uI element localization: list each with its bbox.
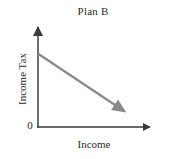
- origin-label: 0: [24, 119, 36, 131]
- tax-schedule-line: [39, 54, 125, 111]
- figure-plan-b: Plan B Income Tax Income 0: [0, 0, 170, 159]
- y-axis-label: Income Tax: [16, 29, 28, 129]
- chart-title: Plan B: [0, 5, 170, 17]
- x-axis-label: Income: [30, 138, 158, 150]
- chart-title-text: Plan B: [78, 5, 109, 17]
